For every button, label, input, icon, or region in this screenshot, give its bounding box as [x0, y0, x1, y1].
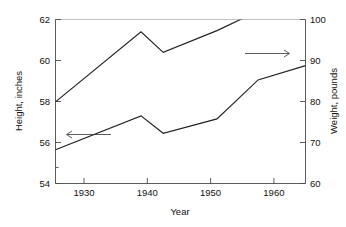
x-label-1960: 1960 [263, 187, 284, 198]
x-label-1940: 1940 [137, 187, 158, 198]
y-left-label-54: 54 [39, 178, 50, 189]
x-label-1950: 1950 [200, 187, 221, 198]
y-left-label-62: 62 [39, 14, 50, 25]
y-right-label-100: 100 [310, 14, 326, 25]
y-left-label-56: 56 [39, 137, 50, 148]
y-right-axis-title: Weight, pounds [328, 68, 339, 134]
y-right-label-70: 70 [310, 137, 321, 148]
y-left-axis-title: Height, inches [13, 71, 24, 131]
chart-figure: 62 60 58 56 54 100 90 80 70 60 1930 1940… [0, 0, 346, 227]
y-right-label-90: 90 [310, 55, 321, 66]
chart-background [0, 0, 346, 227]
line-chart-svg: 62 60 58 56 54 100 90 80 70 60 1930 1940… [0, 0, 346, 227]
y-left-label-58: 58 [39, 96, 50, 107]
x-label-1930: 1930 [73, 187, 94, 198]
x-axis-title: Year [170, 206, 189, 217]
y-right-label-60: 60 [310, 178, 321, 189]
y-left-label-60: 60 [39, 55, 50, 66]
y-right-label-80: 80 [310, 96, 321, 107]
